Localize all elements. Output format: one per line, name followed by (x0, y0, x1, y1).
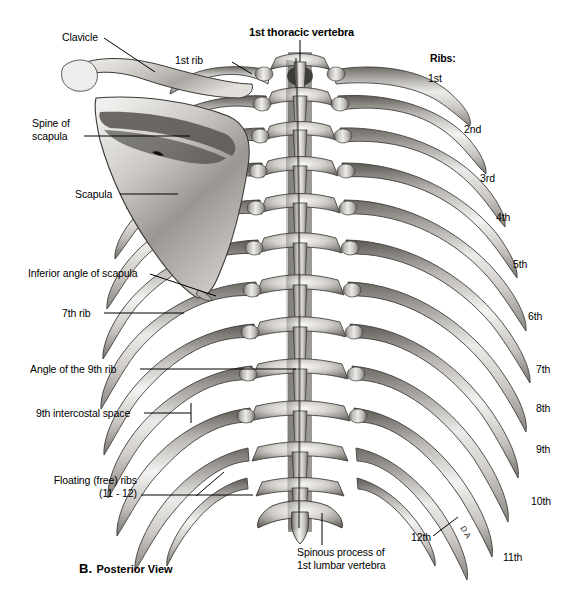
ribs-legend-item-2nd: 2nd (464, 123, 481, 136)
label-scapula: Scapula (75, 188, 112, 201)
label-floating-ribs: Floating (free) ribs (11 - 12) (41, 474, 137, 500)
anatomy-figure: D A Clavicle 1st rib 1st thoracic verteb… (0, 0, 576, 603)
ribs-legend-heading: Ribs: (430, 52, 456, 65)
ribs-legend-item-1st: 1st (428, 72, 442, 85)
ribs-legend-item-10th: 10th (531, 495, 551, 508)
label-angle-of-ninth-rib: Angle of the 9th rib (30, 363, 116, 376)
label-spinous-process-l1: Spinous process of 1st lumbar vertebra (297, 546, 386, 572)
label-first-rib: 1st rib (175, 54, 203, 67)
label-ninth-intercostal-space: 9th intercostal space (36, 407, 130, 420)
acromial-end (62, 60, 98, 91)
ribs-legend-item-7th: 7th (536, 363, 550, 376)
ribs-legend-item-5th: 5th (513, 258, 527, 271)
label-spine-of-scapula: Spine of scapula (32, 117, 70, 143)
label-seventh-rib: 7th rib (62, 307, 90, 320)
ribs-legend-item-4th: 4th (496, 211, 510, 224)
ribs-legend-item-11th: 11th (503, 551, 522, 564)
ribs-legend-item-9th: 9th (536, 443, 550, 456)
label-clavicle: Clavicle (62, 31, 98, 44)
label-inferior-angle-of-scapula: Inferior angle of scapula (28, 267, 138, 280)
ribs-legend-item-6th: 6th (528, 310, 542, 323)
shading-washes (286, 60, 300, 530)
thoracic-cage-illustration: D A (0, 0, 576, 603)
ribs-legend-item-8th: 8th (536, 402, 550, 415)
label-first-thoracic-vertebra: 1st thoracic vertebra (249, 26, 354, 39)
ribs-legend-item-3rd: 3rd (480, 172, 495, 185)
label-twelfth-rib: 12th (411, 531, 431, 544)
